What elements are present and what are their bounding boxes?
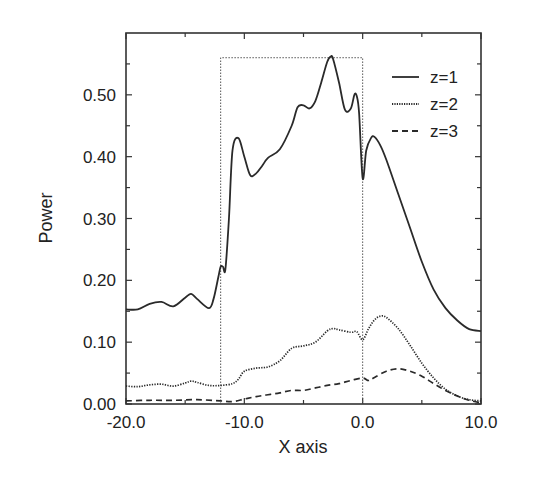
data-series (126, 56, 481, 403)
y-tick-label: 0.20 (83, 271, 116, 290)
x-axis-label: X axis (278, 437, 327, 457)
y-tick-label: 0.40 (83, 148, 116, 167)
axis-ticks (126, 33, 481, 404)
series-line-z2 (126, 316, 481, 401)
legend-item-z1: z=1 (392, 68, 458, 87)
x-tick-label: -20.0 (107, 413, 146, 432)
x-tick-label: -10.0 (225, 413, 264, 432)
y-tick-label: 0.30 (83, 210, 116, 229)
plot-border (126, 33, 481, 404)
series-line-z1 (126, 56, 481, 331)
plot-frame (126, 33, 481, 404)
legend-label-z3: z=3 (430, 122, 458, 141)
dotted-region-outline (221, 58, 363, 404)
legend-item-z2: z=2 (392, 95, 458, 114)
series-line-z3 (126, 369, 481, 403)
power-vs-x-chart: -20.0-10.00.010.00.000.100.200.300.400.5… (0, 0, 534, 493)
legend-label-z2: z=2 (430, 95, 458, 114)
legend-label-z1: z=1 (430, 68, 458, 87)
y-tick-label: 0.50 (83, 86, 116, 105)
y-axis-label: Power (36, 192, 56, 243)
y-tick-label: 0.10 (83, 333, 116, 352)
x-tick-label: 10.0 (464, 413, 497, 432)
x-tick-label: 0.0 (351, 413, 375, 432)
legend-item-z3: z=3 (392, 122, 458, 141)
dotted-region-rectangle (221, 58, 363, 404)
legend: z=1 z=2 z=3 (392, 68, 458, 141)
y-tick-label: 0.00 (83, 395, 116, 414)
